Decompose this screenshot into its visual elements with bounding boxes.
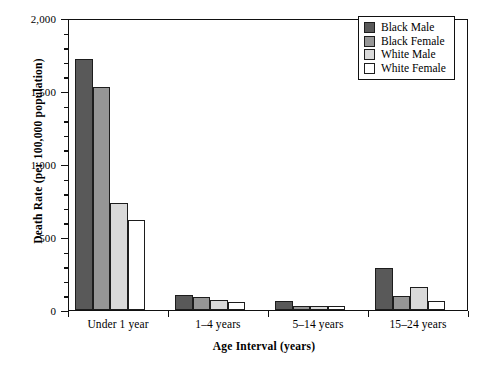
chart-figure: Death Rate (per 100,000 population) 0500… [0,0,492,366]
legend-label: White Male [381,48,436,62]
bar [393,296,411,310]
legend-label: Black Female [381,35,445,49]
bar [228,302,246,310]
y-axis: 05001,0001,5002,000 [0,19,68,311]
legend-swatch-icon [364,49,375,60]
bar [275,301,293,310]
legend-label: Black Male [381,21,434,35]
bar [93,87,111,310]
legend-item: White Female [364,62,446,76]
y-tick-label: 2,000 [10,13,56,25]
bar [310,306,328,310]
legend: Black MaleBlack FemaleWhite MaleWhite Fe… [358,16,455,80]
legend-item: Black Male [364,21,446,35]
x-tick [168,311,169,317]
bar [110,203,128,310]
legend-item: Black Female [364,35,446,49]
bar [328,306,346,310]
bar [293,306,311,310]
legend-label: White Female [381,62,446,76]
x-axis-title: Age Interval (years) [60,340,468,352]
x-tick [468,311,469,317]
x-tick-label: Under 1 year [68,318,168,330]
x-tick-label: 1–4 years [168,318,268,330]
bar [428,301,446,310]
x-tick-label: 15–24 years [368,318,468,330]
bar [128,220,146,310]
bar [210,300,228,310]
y-tick-label: 1,500 [10,86,56,98]
bar-group [175,20,245,310]
y-tick-label: 1,000 [10,159,56,171]
y-tick-label: 0 [10,305,56,317]
bar [75,59,93,310]
legend-swatch-icon [364,22,375,33]
bar [175,295,193,310]
legend-item: White Male [364,48,446,62]
bar [193,297,211,310]
x-tick-label: 5–14 years [268,318,368,330]
legend-swatch-icon [364,63,375,74]
bar-group [275,20,345,310]
y-tick-label: 500 [10,232,56,244]
legend-swatch-icon [364,36,375,47]
bar [375,268,393,310]
x-tick [268,311,269,317]
x-tick [368,311,369,317]
bar-group [75,20,145,310]
x-tick [68,311,69,317]
bar [410,287,428,310]
